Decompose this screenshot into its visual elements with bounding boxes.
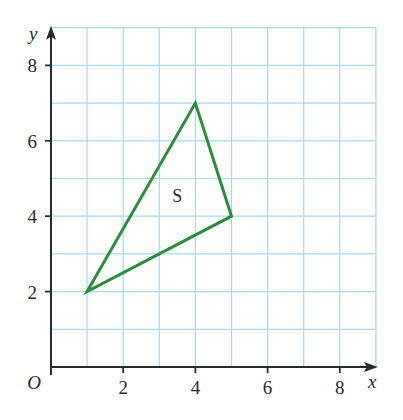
x-tick-label: 8: [335, 377, 345, 398]
x-tick-label: 4: [191, 377, 201, 398]
x-tick-label: 6: [263, 377, 273, 398]
y-tick-label: 2: [28, 282, 38, 303]
y-tick-label: 6: [28, 131, 38, 152]
origin-label: O: [27, 372, 41, 393]
x-tick-label: 2: [118, 377, 128, 398]
y-tick-label: 8: [28, 55, 38, 76]
shape-label: S: [172, 186, 182, 206]
x-axis-label: x: [367, 371, 377, 392]
y-axis-label: y: [27, 23, 38, 44]
coordinate-grid-chart: 24682468OxyS: [0, 0, 403, 420]
y-tick-label: 4: [28, 206, 38, 227]
